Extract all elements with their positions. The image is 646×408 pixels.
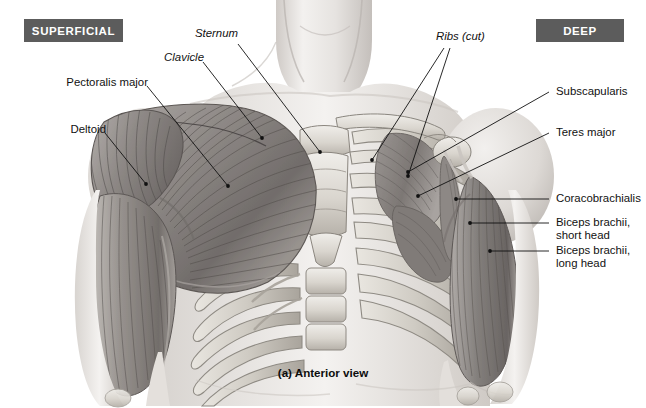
neck	[232, 0, 372, 96]
label-pectoralis-major: Pectoralis major	[28, 76, 148, 89]
figure-caption: (a) Anterior view	[0, 366, 646, 379]
label-deltoid: Deltoid	[28, 123, 106, 136]
label-coracobrachialis: Coracobrachialis	[556, 192, 646, 205]
label-sternum: Sternum	[170, 27, 238, 40]
label-ribs-cut: Ribs (cut)	[436, 30, 506, 43]
deep-badge-label: DEEP	[563, 25, 597, 37]
label-biceps-brachii-long-head: Biceps brachii, long head	[556, 244, 646, 271]
deep-badge: DEEP	[536, 19, 624, 42]
label-teres-major: Teres major	[556, 126, 642, 139]
anatomical-illustration	[0, 0, 646, 408]
superficial-badge: SUPERFICIAL	[24, 19, 123, 42]
vertebrae	[306, 268, 346, 350]
label-subscapularis: Subscapularis	[556, 85, 642, 98]
label-biceps-brachii-short-head: Biceps brachii, short head	[556, 216, 646, 243]
superficial-badge-label: SUPERFICIAL	[32, 25, 115, 37]
label-clavicle: Clavicle	[140, 51, 204, 64]
